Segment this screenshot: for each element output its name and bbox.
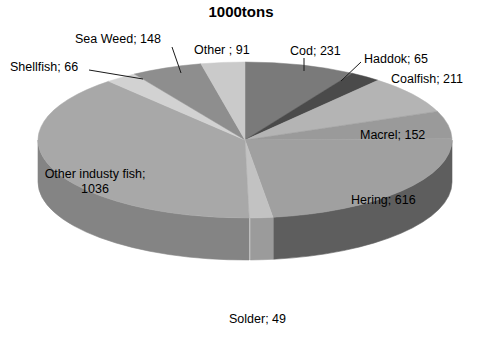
pie-label-haddok: Haddok; 65 — [364, 52, 428, 66]
pie-label-shellfish: Shellfish; 66 — [10, 60, 78, 74]
pie-label-seaweed: Sea Weed; 148 — [75, 32, 161, 46]
chart-title: 1000tons — [0, 3, 482, 20]
pie-label-other: Other ; 91 — [194, 43, 250, 57]
pie-label-coalfish: Coalfish; 211 — [391, 72, 463, 86]
pie-label-otherfish: Other industy fish; 1036 — [40, 167, 150, 197]
pie-slice-side-solder — [250, 217, 273, 260]
pie-label-cod: Cod; 231 — [290, 44, 341, 58]
pie-label-macrel: Macrel; 152 — [360, 128, 425, 142]
pie-label-solder: Solder; 49 — [229, 312, 286, 326]
pie-chart-figure: Cod; 231Haddok; 65Coalfish; 211Macrel; 1… — [0, 0, 482, 340]
pie-label-hering: Hering; 616 — [351, 193, 416, 207]
